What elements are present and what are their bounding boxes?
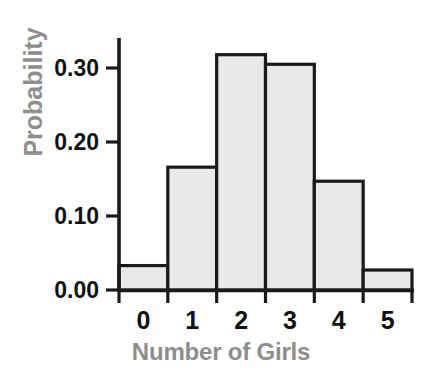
y-tick-label-0.00: 0.00	[54, 277, 99, 303]
x-tick-label-4: 4	[332, 306, 346, 334]
histogram-figure: Probability Number of Girls 0.000.100.20…	[0, 0, 442, 386]
bar-0	[119, 266, 168, 290]
bar-2	[217, 55, 266, 290]
x-tick-label-3: 3	[283, 306, 297, 334]
y-tick-label-0.20: 0.20	[54, 129, 99, 155]
bar-1	[168, 167, 217, 290]
y-tick-label-0.30: 0.30	[54, 55, 99, 81]
x-ticks-group: 012345	[119, 290, 412, 334]
y-tick-label-0.10: 0.10	[54, 203, 99, 229]
x-tick-label-5: 5	[381, 306, 395, 334]
y-ticks-group: 0.000.100.200.30	[54, 55, 119, 303]
bar-4	[314, 181, 363, 290]
x-tick-label-2: 2	[234, 306, 248, 334]
x-tick-label-1: 1	[185, 306, 199, 334]
bar-5	[363, 270, 412, 290]
plot-area: 0.000.100.200.30 012345	[0, 0, 442, 386]
x-tick-label-0: 0	[136, 306, 150, 334]
bars-group	[119, 55, 412, 290]
bar-3	[266, 64, 315, 290]
